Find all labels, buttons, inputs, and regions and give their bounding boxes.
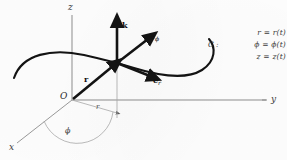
equation-line-r: r = r(t): [257, 28, 286, 37]
origin-label: O: [60, 92, 67, 101]
space-curve-C: [14, 39, 214, 78]
y-axis-label: y: [271, 95, 276, 104]
radial-segment: [72, 100, 117, 113]
phi-angle-arc: [44, 112, 113, 143]
z-axis-label: z: [68, 3, 73, 12]
phi-angle-label: ϕ: [65, 127, 70, 135]
curve-name-label: C :: [208, 40, 219, 49]
construction-lines: [44, 63, 117, 143]
position-vector-label: r: [84, 75, 88, 83]
e-r-unit-vector-label: er: [153, 76, 161, 86]
parametric-equations-block: r = r(t) C : ϕ = ϕ(t) z = z(t): [202, 28, 286, 61]
k-unit-vector-label: k: [122, 21, 128, 29]
equation-line-z: z = z(t): [257, 52, 286, 61]
e-r-unit-vector-arrow: [117, 63, 150, 76]
e-phi-subscript: ϕ: [155, 35, 159, 42]
figure-canvas: z y x O ϕ r r k eϕ er r = r(t) C : ϕ = ϕ…: [0, 0, 287, 160]
position-vector-r: [73, 66, 113, 99]
x-axis-label: x: [9, 143, 14, 152]
radial-distance-label: r: [96, 104, 99, 111]
equation-line-phi: ϕ = ϕ(t): [254, 40, 286, 49]
e-r-subscript: r: [158, 79, 161, 86]
diagram-svg: [0, 0, 287, 160]
e-phi-unit-vector-arrow: [117, 39, 148, 63]
e-phi-unit-vector-label: eϕ: [150, 32, 159, 42]
